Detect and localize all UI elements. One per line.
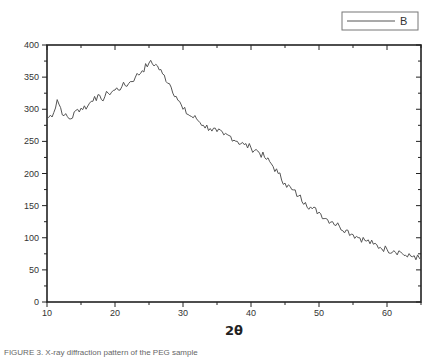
plot-frame — [47, 45, 421, 302]
svg-text:100: 100 — [24, 233, 39, 243]
legend: B — [342, 12, 418, 30]
x-axis-label: 2θ — [225, 323, 243, 338]
svg-text:50: 50 — [314, 308, 324, 318]
svg-text:0: 0 — [34, 297, 39, 307]
svg-text:50: 50 — [29, 265, 39, 275]
svg-text:200: 200 — [24, 169, 39, 179]
legend-label: B — [400, 15, 407, 27]
series-b-line — [47, 60, 421, 260]
svg-text:20: 20 — [110, 308, 120, 318]
svg-text:10: 10 — [42, 308, 52, 318]
svg-text:400: 400 — [24, 40, 39, 50]
tick-labels: 050100150200250300350400102030405060 — [24, 40, 392, 318]
svg-text:60: 60 — [382, 308, 392, 318]
axis-ticks — [42, 45, 421, 307]
svg-text:150: 150 — [24, 201, 39, 211]
svg-text:30: 30 — [178, 308, 188, 318]
figure-caption: FIGURE 3. X-ray diffraction pattern of t… — [4, 348, 198, 357]
svg-text:350: 350 — [24, 72, 39, 82]
svg-text:300: 300 — [24, 104, 39, 114]
svg-text:250: 250 — [24, 136, 39, 146]
svg-text:40: 40 — [246, 308, 256, 318]
